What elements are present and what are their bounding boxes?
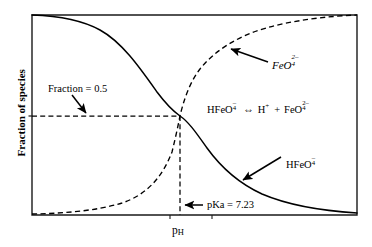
feo4-arrow (231, 49, 268, 62)
hfeo4-label-charge-stack: –4 (312, 157, 319, 168)
eq-right-base: FeO (284, 104, 302, 115)
fraction-annotation-label: Fraction = 0.5 (48, 83, 107, 94)
feo4-curve-label: FeO2–4 (272, 58, 298, 72)
x-axis-title: pH (172, 224, 184, 236)
speciation-chart-figure: Fraction of species pH Fraction = 0.5 Fe… (0, 0, 372, 247)
feo4-label-base: FeO (272, 59, 292, 71)
eq-left-base: HFeO (207, 104, 233, 115)
x-axis-title-sub: H (178, 227, 184, 237)
hfeo4-curve-label: HFeO–4 (286, 157, 318, 170)
eq-arrow: ⇔ (239, 104, 258, 115)
hfeo4-label-base: HFeO (286, 159, 312, 170)
plot-canvas (0, 0, 372, 247)
eq-left-charge-stack: –4 (233, 102, 240, 113)
eq-left-subscript: 4 (233, 104, 236, 111)
plot-frame (32, 15, 357, 215)
fraction-arrow (72, 95, 86, 113)
equilibrium-equation-label: HFeO–4⇔H++FeO2–4 (207, 102, 309, 115)
feo4-label-subscript: 4 (292, 61, 296, 68)
feo4-label-charge-stack: 2–4 (292, 58, 299, 69)
eq-plus: + (269, 104, 284, 115)
eq-right-subscript: 4 (302, 104, 305, 111)
hfeo4-label-subscript: 4 (312, 159, 315, 166)
y-axis-title: Fraction of species (16, 48, 28, 178)
x-axis-title-main: p (172, 224, 178, 236)
eq-right-charge-stack: 2–4 (302, 102, 309, 113)
pka-annotation-label: pKa = 7.23 (207, 199, 254, 210)
hfeo4-arrow (243, 157, 281, 180)
